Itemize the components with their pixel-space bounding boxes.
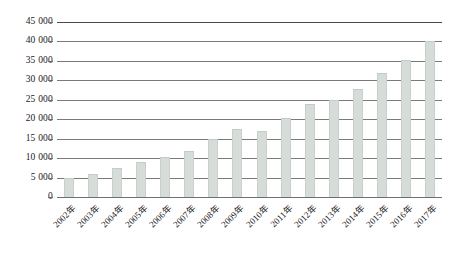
y-axis-tick [48,139,53,140]
bar [184,151,194,197]
y-axis-tick-label: 25 000 [0,95,53,105]
x-axis: 2002年2003年2004年2005年2006年2007年2008年2009年… [57,198,442,255]
y-axis-tick-label: 20 000 [0,114,53,124]
bar [232,129,242,197]
y-axis-tick-label: 10 000 [0,153,53,163]
y-axis-tick [48,197,53,198]
y-axis-tick-label: 30 000 [0,76,53,86]
bar [208,139,218,197]
bar [112,168,122,197]
y-axis-tick [48,119,53,120]
bar [377,73,387,197]
y-axis-tick-label: 45 000 [0,17,53,27]
y-axis-tick-label: 5 000 [0,173,53,183]
bar [136,162,146,197]
y-axis: 05 00010 00015 00020 00025 00030 00035 0… [0,22,53,197]
plot-area [57,22,442,197]
bar [281,118,291,197]
bar [353,89,363,197]
bar [64,178,74,197]
bar [160,157,170,197]
bar-chart: 05 00010 00015 00020 00025 00030 00035 0… [0,0,455,255]
bars-layer [57,22,442,197]
y-axis-tick-label: 35 000 [0,56,53,66]
bar [329,100,339,197]
y-axis-tick [48,22,53,23]
bar [88,174,98,197]
y-axis-tick [48,158,53,159]
y-axis-tick [48,80,53,81]
bar [305,104,315,197]
y-axis-tick [48,178,53,179]
bar [257,131,267,197]
bar [425,41,435,197]
y-axis-tick [48,41,53,42]
y-axis-tick [48,61,53,62]
bar [401,60,411,197]
y-axis-tick-label: 0 [0,192,53,202]
y-axis-tick [48,100,53,101]
y-axis-tick-label: 40 000 [0,37,53,47]
y-axis-tick-label: 15 000 [0,134,53,144]
